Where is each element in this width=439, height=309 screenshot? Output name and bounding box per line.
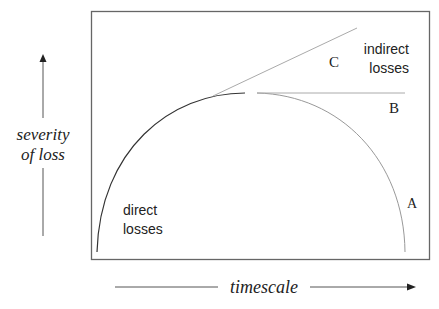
arrow-right-icon xyxy=(407,284,416,291)
arrow-up-icon xyxy=(40,54,47,62)
direct-losses-label-line2: losses xyxy=(123,221,163,237)
curve-label-a: A xyxy=(407,196,418,211)
curve-label-b: B xyxy=(389,100,399,116)
curve-a xyxy=(257,93,405,252)
direct-losses-label-line1: direct xyxy=(123,202,157,218)
y-axis-label-line2: of loss xyxy=(21,145,65,164)
indirect-losses-label-line1: indirect xyxy=(364,41,409,57)
y-axis-label-line1: severity xyxy=(17,125,70,144)
indirect-losses-label-line2: losses xyxy=(369,60,409,76)
curve-label-c: C xyxy=(329,54,339,70)
loss-diagram: severity of loss timescale direct losses… xyxy=(0,0,439,309)
x-axis-label: timescale xyxy=(230,277,298,297)
direct-loss-curve xyxy=(97,93,245,252)
